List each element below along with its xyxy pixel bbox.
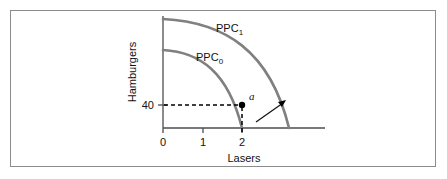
curve-label-ppc-1-text: PPC <box>216 22 239 34</box>
y-axis-label: Hamburgers <box>126 41 138 102</box>
x-tick-label-1: 1 <box>200 136 206 148</box>
curve-label-ppc-0-subscript: 0 <box>219 57 224 66</box>
curve-label-ppc-0: PPC0 <box>196 51 224 66</box>
curve-label-ppc-1: PPC1 <box>216 22 244 37</box>
x-axis-label: Lasers <box>227 152 261 164</box>
curve-label-ppc-1-subscript: 1 <box>239 28 244 37</box>
point-a-marker <box>239 102 245 108</box>
growth-arrow-shaft <box>256 103 283 122</box>
curve-label-ppc-0-text: PPC <box>196 51 219 63</box>
figure-root: 0 1 2 40 Lasers Hamburgers PPC1 PPC0 a <box>0 0 447 179</box>
y-tick-label-40: 40 <box>142 99 154 111</box>
x-tick-label-2: 2 <box>239 136 245 148</box>
point-a-label: a <box>249 90 255 102</box>
ppc-chart: 0 1 2 40 Lasers Hamburgers PPC1 PPC0 a <box>0 0 447 179</box>
x-tick-label-0: 0 <box>160 136 166 148</box>
